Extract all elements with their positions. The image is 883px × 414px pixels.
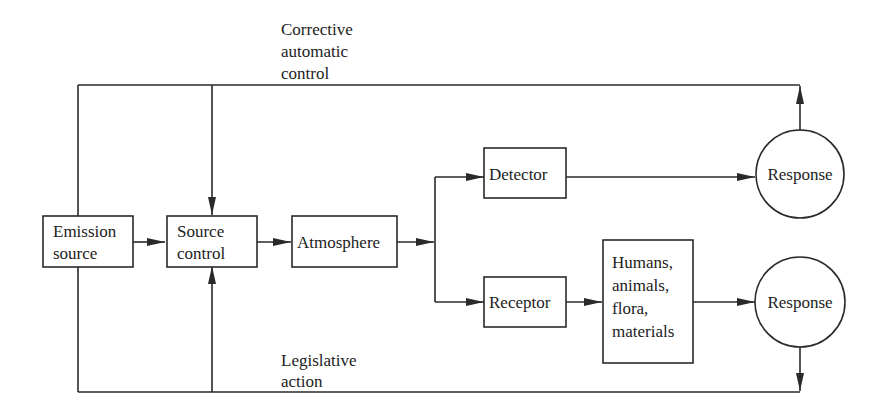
source-control-label-2: control [177,244,225,263]
source-control-box: Source control [167,216,257,267]
source-control-label-1: Source [177,222,224,241]
targets-label-1: Humans, [612,253,673,272]
response-top-label: Response [767,165,832,184]
targets-label-2: animals, [612,276,669,295]
detector-box: Detector [484,148,566,198]
air-pollution-control-diagram: Emission source Source control Atmospher… [0,0,883,414]
corrective-label-1: Corrective [281,20,353,39]
targets-label-4: materials [612,322,674,341]
corrective-label-2: automatic [281,42,348,61]
corrective-label-3: control [281,64,329,83]
targets-box: Humans, animals, flora, materials [603,240,693,363]
detector-label: Detector [489,165,548,184]
response-bottom-circle: Response [755,257,845,347]
legislative-label: Legislative action [281,351,357,391]
targets-label-3: flora, [612,299,648,318]
emission-source-label-1: Emission [53,222,117,241]
response-top-circle: Response [756,130,844,218]
emission-source-label-2: source [53,244,97,263]
corrective-feedback-loop [78,85,800,216]
atmosphere-label: Atmosphere [297,233,380,252]
response-bottom-label: Response [767,293,832,312]
atmosphere-box: Atmosphere [292,216,397,267]
corrective-label: Corrective automatic control [281,20,353,83]
legislative-label-1: Legislative [281,351,357,370]
receptor-box: Receptor [484,277,566,327]
receptor-label: Receptor [489,293,551,312]
legislative-label-2: action [281,372,323,391]
emission-source-box: Emission source [43,216,133,267]
